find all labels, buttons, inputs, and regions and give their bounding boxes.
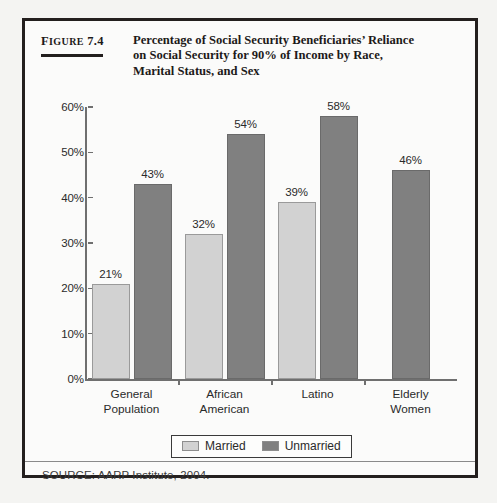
bar-value-label: 46% xyxy=(384,154,438,166)
figure-label-word: IGURE xyxy=(49,36,84,47)
bar-unmarried-general-population xyxy=(134,184,172,379)
y-axis-tick-label: 20% xyxy=(61,282,88,294)
x-axis-tick-mark xyxy=(178,379,180,385)
y-axis-tick: 0% xyxy=(41,373,93,385)
x-axis-tick-mark xyxy=(364,379,366,385)
bar-value-label: 32% xyxy=(177,218,231,230)
y-axis-tick: 10% xyxy=(41,328,93,340)
bar-unmarried-african-american xyxy=(227,134,265,379)
bar-value-label: 58% xyxy=(312,100,366,112)
legend-item-married[interactable]: Married xyxy=(182,439,246,453)
y-axis-tick: 50% xyxy=(41,146,93,158)
y-axis-tick: 40% xyxy=(41,192,93,204)
legend-swatch-married xyxy=(182,441,199,451)
y-axis-tick: 20% xyxy=(41,282,93,294)
category-label: GeneralPopulation xyxy=(85,387,178,416)
y-axis-tick-label: 50% xyxy=(61,146,88,158)
bar-married-general-population xyxy=(92,284,130,379)
bar-value-label: 39% xyxy=(270,186,324,198)
figure-label-rule xyxy=(41,54,103,57)
figure-label-number: 7.4 xyxy=(87,34,104,48)
category-label: Latino xyxy=(271,387,364,402)
category-label-line: African xyxy=(178,387,271,402)
figure-frame: FIGURE 7.4 Percentage of Social Security… xyxy=(22,18,478,478)
figure-title-line-1: Percentage of Social Security Beneficiar… xyxy=(133,33,461,48)
figure-title-line-2: on Social Security for 90% of Income by … xyxy=(133,48,461,63)
category-label-line: Latino xyxy=(271,387,364,402)
figure-header: FIGURE 7.4 Percentage of Social Security… xyxy=(41,33,461,79)
legend-swatch-unmarried xyxy=(262,441,279,451)
figure-title: Percentage of Social Security Beneficiar… xyxy=(133,33,461,79)
bar-unmarried-elderly-women xyxy=(392,170,430,379)
y-axis-tick-label: 10% xyxy=(61,328,88,340)
y-axis-tick-label: 0% xyxy=(68,373,88,385)
bar-married-latino xyxy=(278,202,316,379)
figure-label: FIGURE 7.4 xyxy=(41,34,133,49)
y-axis-tick-label: 60% xyxy=(61,101,88,113)
y-axis-tick-mark xyxy=(88,242,93,244)
category-label-line: American xyxy=(178,402,271,417)
bar-value-label: 43% xyxy=(126,168,180,180)
chart-plot-area: 0%10%20%30%40%50%60% 21%43%32%54%39%58%4… xyxy=(41,101,465,401)
bar-married-african-american xyxy=(185,234,223,379)
chart-legend: MarriedUnmarried xyxy=(171,435,352,458)
category-label-line: Women xyxy=(364,402,457,417)
y-axis-tick-mark xyxy=(88,152,93,154)
bar-unmarried-latino xyxy=(320,116,358,379)
bar-value-label: 21% xyxy=(84,268,138,280)
y-axis-tick: 60% xyxy=(41,101,93,113)
category-label-line: Population xyxy=(85,402,178,417)
category-label: ElderlyWomen xyxy=(364,387,457,416)
source-divider xyxy=(25,461,475,462)
figure-label-block: FIGURE 7.4 xyxy=(41,33,133,57)
category-label-line: Elderly xyxy=(364,387,457,402)
y-axis-tick-label: 30% xyxy=(61,237,88,249)
legend-item-unmarried[interactable]: Unmarried xyxy=(262,439,341,453)
y-axis-tick-label: 40% xyxy=(61,192,88,204)
figure-title-line-3: Marital Status, and Sex xyxy=(133,64,461,79)
bar-value-label: 54% xyxy=(219,118,273,130)
legend-label: Unmarried xyxy=(285,439,341,453)
category-label-line: General xyxy=(85,387,178,402)
y-axis-tick: 30% xyxy=(41,237,93,249)
y-axis-tick-mark xyxy=(88,197,93,199)
y-axis-tick-mark xyxy=(88,106,93,108)
x-axis-tick-mark xyxy=(271,379,273,385)
legend-label: Married xyxy=(205,439,246,453)
figure-label-initial: F xyxy=(41,34,49,48)
source-note: SOURCE: AARP Institute, 2004. xyxy=(42,469,209,481)
category-label: AfricanAmerican xyxy=(178,387,271,416)
